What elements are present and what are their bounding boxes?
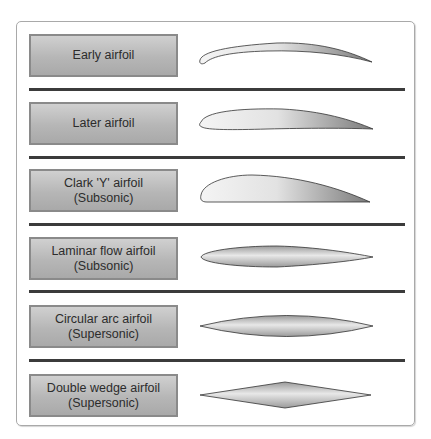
label-line1: Early airfoil <box>73 48 135 63</box>
airfoil-label-early: Early airfoil <box>29 34 178 77</box>
label-line1: Circular arc airfoil <box>55 312 152 327</box>
later-airfoil-shape <box>197 102 387 145</box>
divider <box>29 290 405 293</box>
laminar-flow-airfoil-shape <box>197 237 387 280</box>
airfoil-label-laminar: Laminar flow airfoil (Subsonic) <box>29 237 178 280</box>
divider <box>29 359 405 362</box>
airfoil-row-early: Early airfoil <box>29 34 406 77</box>
circular-arc-airfoil-shape <box>197 305 387 348</box>
divider <box>29 88 405 91</box>
label-line2: (Subsonic) <box>74 259 134 274</box>
airfoil-row-double-wedge: Double wedge airfoil (Supersonic) <box>29 374 406 417</box>
divider <box>29 156 405 159</box>
airfoil-label-double-wedge: Double wedge airfoil (Supersonic) <box>29 374 178 417</box>
divider <box>29 223 405 226</box>
airfoil-label-clark-y: Clark 'Y' airfoil (Subsonic) <box>29 169 178 212</box>
label-line2: (Supersonic) <box>68 327 139 342</box>
airfoil-label-circular-arc: Circular arc airfoil (Supersonic) <box>29 305 178 348</box>
airfoil-row-later: Later airfoil <box>29 102 406 145</box>
clark-y-airfoil-shape <box>197 169 387 212</box>
label-line1: Double wedge airfoil <box>47 381 160 396</box>
double-wedge-airfoil-shape <box>197 374 387 417</box>
early-airfoil-shape <box>197 34 387 77</box>
label-line1: Later airfoil <box>73 116 135 131</box>
airfoil-row-laminar: Laminar flow airfoil (Subsonic) <box>29 237 406 280</box>
airfoil-row-clark-y: Clark 'Y' airfoil (Subsonic) <box>29 169 406 212</box>
airfoil-label-later: Later airfoil <box>29 102 178 145</box>
clipped-caption: Figure 1-XX. Types of airfoil sections <box>0 0 431 5</box>
label-line2: (Subsonic) <box>74 191 134 206</box>
label-line1: Clark 'Y' airfoil <box>64 176 143 191</box>
label-line1: Laminar flow airfoil <box>51 244 155 259</box>
airfoil-row-circular-arc: Circular arc airfoil (Supersonic) <box>29 305 406 348</box>
label-line2: (Supersonic) <box>68 396 139 411</box>
